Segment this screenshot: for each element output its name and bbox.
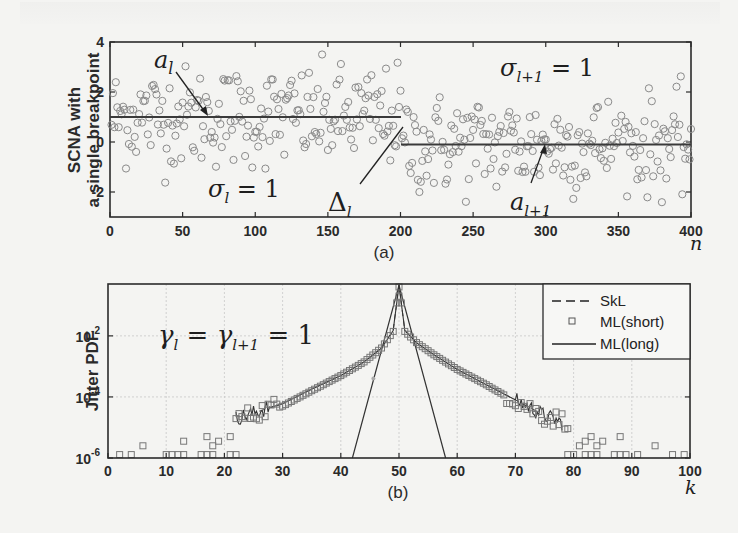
data-point (516, 148, 523, 155)
data-point (632, 129, 639, 136)
data-point (159, 97, 166, 104)
data-point (262, 165, 269, 172)
data-point (339, 128, 346, 135)
data-point (464, 114, 471, 121)
data-point (215, 100, 222, 107)
data-point (442, 180, 449, 187)
data-point (490, 155, 497, 162)
ml-short-floor-marker (594, 452, 600, 458)
data-point (138, 119, 145, 126)
data-point (477, 121, 484, 128)
x-tick-label: 50 (175, 223, 191, 239)
data-point (580, 149, 587, 156)
ml-short-floor-marker (117, 452, 123, 458)
legend-ml-long-label: ML(long) (600, 335, 659, 352)
data-point (211, 134, 218, 141)
data-point (192, 104, 199, 111)
data-point (422, 148, 429, 155)
data-point (175, 103, 182, 110)
data-point (634, 176, 641, 183)
data-point (133, 148, 140, 155)
data-point (533, 136, 540, 143)
data-point (484, 145, 491, 152)
data-point (400, 132, 407, 139)
data-point (657, 167, 664, 174)
data-point (240, 97, 247, 104)
data-point (638, 174, 645, 181)
data-point (263, 82, 270, 89)
data-point (429, 147, 436, 154)
panel-a-ylabel-line1: SCNA with (65, 87, 84, 173)
data-point (390, 122, 397, 129)
ml-short-floor-marker (588, 452, 594, 458)
data-point (423, 172, 430, 179)
ml-short-floor-marker (210, 452, 216, 458)
data-point (356, 123, 363, 130)
data-point (181, 123, 188, 130)
data-point (327, 125, 334, 132)
legend: SkL ML(short) ML(long) (543, 284, 690, 359)
data-point (673, 83, 680, 90)
data-point (488, 114, 495, 121)
ml-short-sparse-marker (652, 443, 658, 449)
ml-short-floor-marker (623, 452, 629, 458)
data-point (124, 127, 131, 134)
panel-a-xlabel: n (690, 232, 702, 254)
data-point (281, 151, 288, 158)
data-point (407, 169, 414, 176)
x-tick-label: 50 (391, 463, 407, 479)
ml-short-sparse-marker (204, 434, 210, 440)
data-point (529, 147, 536, 154)
ml-short-floor-marker (181, 452, 187, 458)
data-point (275, 105, 282, 112)
data-point (605, 98, 612, 105)
ml-short-floor-marker (565, 452, 571, 458)
data-point (500, 129, 507, 136)
data-point (144, 131, 151, 138)
data-point (234, 78, 241, 85)
legend-ml-short-label: ML(short) (600, 313, 664, 330)
ml-short-sparse-marker (140, 443, 146, 449)
panel-a-caption: (a) (374, 243, 395, 262)
data-point (565, 123, 572, 130)
data-point (316, 138, 323, 145)
data-point (651, 121, 658, 128)
panel-b-caption: (b) (388, 483, 409, 502)
data-point (487, 165, 494, 172)
data-point (247, 96, 254, 103)
data-point (324, 146, 331, 153)
panel-a-ylabel-line2: a single breakpoint (84, 52, 103, 207)
data-point (503, 150, 510, 157)
data-point (590, 114, 597, 121)
panel-b-jitter-pdf-plot: 010203040506070809010010-610-410-2 γl = … (76, 284, 702, 502)
data-point (674, 133, 681, 140)
data-point (410, 114, 417, 121)
data-point (115, 124, 122, 131)
x-tick-label: 250 (461, 223, 485, 239)
gamma-annotation: γl = γl+1 = 1 (158, 320, 314, 354)
x-tick-label: 100 (244, 223, 268, 239)
ml-short-floor-marker (670, 452, 676, 458)
data-point (298, 72, 305, 79)
data-point (589, 137, 596, 144)
x-tick-label: 0 (104, 463, 112, 479)
x-tick-label: 40 (333, 463, 349, 479)
ml-short-marker (550, 423, 556, 429)
data-point (603, 164, 610, 171)
data-point (666, 145, 673, 152)
ml-short-floor-marker (128, 452, 134, 458)
x-tick-label: 90 (624, 463, 640, 479)
ml-short-sparse-marker (576, 443, 582, 449)
x-tick-label: 150 (316, 223, 340, 239)
a-l1-label: al+1 (510, 188, 551, 220)
data-point (645, 85, 652, 92)
data-point (387, 157, 394, 164)
data-point (552, 160, 559, 167)
data-point (237, 88, 244, 95)
data-point (337, 60, 344, 67)
data-point (162, 179, 169, 186)
data-point (430, 179, 437, 186)
ml-short-floor-marker (169, 452, 175, 458)
x-tick-label: 200 (389, 223, 413, 239)
ml-short-sparse-marker (617, 434, 623, 440)
